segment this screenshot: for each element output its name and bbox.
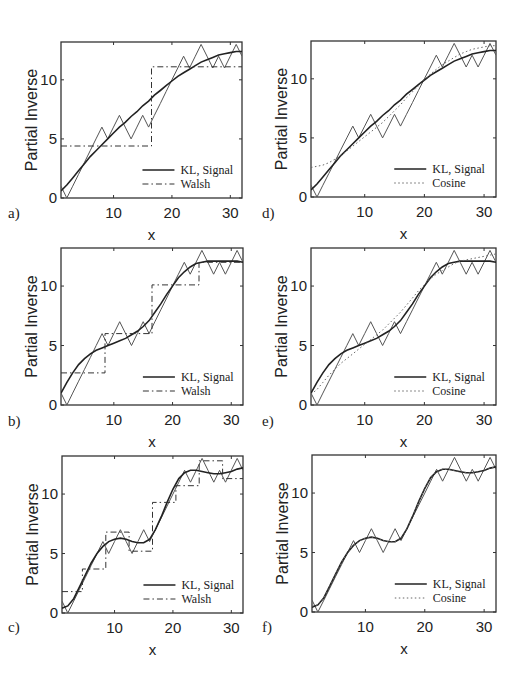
x-axis-label: x — [148, 433, 156, 450]
figure-grid: 1020300510Partial Inversexa)KL, SignalWa… — [0, 0, 523, 688]
legend-entry: Walsh — [181, 592, 211, 606]
y-axis-label: Partial Inverse — [274, 482, 291, 584]
x-tick-label: 30 — [223, 619, 240, 636]
panel-label: c) — [8, 619, 20, 636]
series-walsh — [62, 461, 243, 592]
x-tick-label: 20 — [416, 618, 433, 635]
y-tick-label: 5 — [49, 130, 57, 147]
y-tick-label: 0 — [49, 396, 57, 413]
legend-entry: Walsh — [181, 384, 211, 398]
x-tick-label: 10 — [105, 204, 122, 221]
y-tick-label: 0 — [300, 603, 308, 620]
legend-entry: Walsh — [180, 177, 210, 191]
y-tick-label: 10 — [41, 485, 58, 502]
x-tick-label: 10 — [105, 411, 122, 428]
y-tick-label: 0 — [299, 396, 307, 413]
panel-a: 1020300510Partial Inversexa)KL, SignalWa… — [8, 42, 242, 243]
y-tick-label: 0 — [299, 188, 307, 205]
x-tick-label: 30 — [476, 203, 493, 220]
x-tick-label: 20 — [416, 411, 433, 428]
panel-d: 1020300510Partial Inversexd)KL, SignalCo… — [262, 41, 496, 242]
x-tick-label: 10 — [356, 411, 373, 428]
legend: KL, SignalWalsh — [143, 578, 234, 606]
panel-label: d) — [262, 205, 275, 222]
y-tick-label: 5 — [299, 129, 307, 146]
legend-entry: KL, Signal — [432, 162, 485, 176]
x-axis-label: x — [148, 226, 156, 243]
x-tick-label: 10 — [357, 618, 374, 635]
panel-label: e) — [262, 413, 274, 430]
panel-f: 1020300510Partial Inversexf)KL, SignalCo… — [262, 455, 496, 657]
legend: KL, SignalCosine — [394, 370, 485, 398]
x-tick-label: 20 — [164, 411, 181, 428]
x-tick-label: 20 — [165, 619, 182, 636]
legend-entry: Cosine — [432, 176, 465, 190]
legend-entry: KL, Signal — [181, 578, 234, 592]
y-axis-label: Partial Inverse — [273, 68, 290, 170]
panel-label: f) — [262, 619, 272, 636]
legend: KL, SignalWalsh — [143, 370, 234, 398]
x-tick-label: 10 — [106, 619, 123, 636]
x-tick-label: 20 — [416, 203, 433, 220]
y-tick-label: 10 — [291, 484, 308, 501]
y-tick-label: 5 — [49, 337, 57, 354]
y-axis-label: Partial Inverse — [23, 275, 40, 377]
y-tick-label: 5 — [50, 545, 58, 562]
legend-entry: KL, Signal — [180, 163, 233, 177]
x-axis-label: x — [400, 433, 408, 450]
y-tick-label: 10 — [40, 277, 57, 294]
legend-entry: Cosine — [433, 591, 466, 605]
x-tick-label: 30 — [476, 618, 493, 635]
panel-e: 1020300510Partial Inversexe)KL, SignalCo… — [262, 248, 496, 450]
x-tick-label: 20 — [164, 204, 181, 221]
y-axis-label: Partial Inverse — [24, 483, 41, 585]
series-walsh — [61, 67, 242, 146]
legend: KL, SignalCosine — [394, 162, 485, 190]
legend: KL, SignalCosine — [395, 577, 486, 605]
y-tick-label: 5 — [300, 544, 308, 561]
y-axis-label: Partial Inverse — [23, 69, 40, 171]
x-tick-label: 10 — [356, 203, 373, 220]
x-tick-label: 30 — [223, 411, 240, 428]
legend: KL, SignalWalsh — [142, 163, 233, 191]
y-tick-label: 0 — [49, 189, 57, 206]
legend-entry: KL, Signal — [433, 577, 486, 591]
legend-entry: Cosine — [432, 384, 465, 398]
y-tick-label: 0 — [50, 604, 58, 621]
y-axis-label: Partial Inverse — [273, 275, 290, 377]
panel-label: b) — [8, 413, 21, 430]
panel-b: 1020300510Partial Inversexb)KL, SignalWa… — [8, 248, 243, 450]
x-axis-label: x — [400, 640, 408, 657]
x-tick-label: 30 — [222, 204, 239, 221]
legend-entry: KL, Signal — [432, 370, 485, 384]
y-tick-label: 10 — [290, 277, 307, 294]
y-tick-label: 10 — [290, 70, 307, 87]
y-tick-label: 5 — [299, 337, 307, 354]
x-axis-label: x — [149, 641, 157, 658]
y-tick-label: 10 — [40, 71, 57, 88]
x-axis-label: x — [400, 225, 408, 242]
six-panel-chart: 1020300510Partial Inversexa)KL, SignalWa… — [0, 0, 523, 688]
panel-label: a) — [8, 205, 20, 222]
panel-c: 1020300510Partial Inversexc)KL, SignalWa… — [8, 456, 243, 658]
x-tick-label: 30 — [476, 411, 493, 428]
legend-entry: KL, Signal — [181, 370, 234, 384]
